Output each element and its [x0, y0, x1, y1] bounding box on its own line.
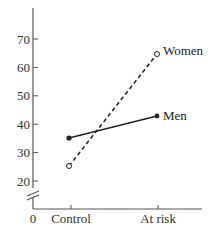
line-chart: 70 60 50 40 30 20 0 Control At risk Wome… [0, 0, 212, 230]
women-line [69, 54, 157, 166]
men-series-label: Men [163, 108, 187, 123]
women-control-marker [67, 164, 72, 169]
women-series-label: Women [163, 43, 204, 58]
y-tick-label-20: 20 [17, 174, 30, 189]
x-label-at-risk: At risk [140, 211, 176, 226]
women-at-risk-marker [155, 52, 160, 57]
men-line [69, 116, 157, 138]
y-tick-label-30: 30 [17, 145, 30, 160]
y-tick-label-50: 50 [17, 88, 30, 103]
men-at-risk-marker [155, 114, 160, 119]
men-control-marker [66, 135, 71, 140]
x-label-control: Control [51, 211, 91, 226]
y-tick-label-70: 70 [17, 32, 30, 47]
x-origin-label: 0 [30, 211, 37, 226]
y-ticks [33, 39, 38, 181]
y-tick-label-40: 40 [17, 117, 30, 132]
y-tick-label-60: 60 [17, 60, 30, 75]
